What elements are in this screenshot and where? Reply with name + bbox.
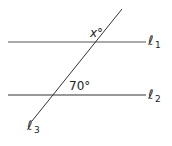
svg-text:3: 3 <box>34 125 40 135</box>
svg-text:2: 2 <box>155 94 161 104</box>
label-l2: ℓ 2 <box>147 87 161 104</box>
parallel-lines-diagram: x° 70° ℓ 1 ℓ 2 ℓ 3 <box>0 0 172 146</box>
svg-text:ℓ: ℓ <box>147 87 153 102</box>
svg-text:ℓ: ℓ <box>26 118 32 133</box>
svg-text:1: 1 <box>155 40 161 50</box>
angle-x-label: x° <box>89 26 103 40</box>
label-l1: ℓ 1 <box>147 33 161 50</box>
svg-text:ℓ: ℓ <box>147 33 153 48</box>
transversal-l3 <box>32 9 122 121</box>
angle-70-label: 70° <box>69 79 90 93</box>
